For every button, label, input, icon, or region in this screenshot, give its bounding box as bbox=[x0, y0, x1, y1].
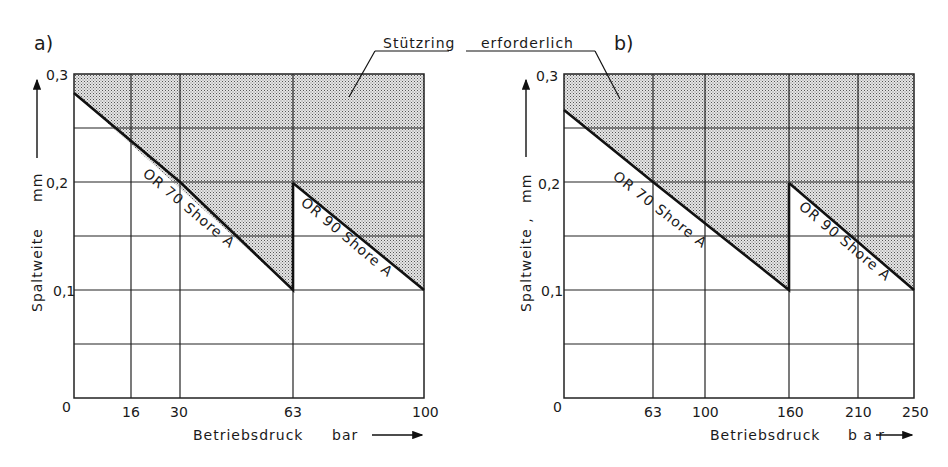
y-tick-a-0.3: 0,3 bbox=[46, 67, 68, 83]
panel-label-a: a) bbox=[34, 32, 53, 54]
y-axis-unit-a: mm bbox=[29, 173, 45, 202]
x-axis-label-a: Betriebsdruck bbox=[193, 427, 303, 443]
callout-text-right: erforderlich bbox=[481, 35, 574, 51]
x-tick-a-30: 30 bbox=[170, 404, 188, 420]
y-tick-a-0.2: 0,2 bbox=[46, 175, 68, 191]
panel-label-b: b) bbox=[614, 32, 633, 54]
y-tick-b-0.1: 0,1 bbox=[541, 283, 563, 299]
x-tick-b-100: 100 bbox=[692, 404, 719, 420]
x-tick-b-250: 250 bbox=[902, 404, 929, 420]
x-tick-a-100: 100 bbox=[412, 404, 439, 420]
x-tick-a-63: 63 bbox=[284, 404, 302, 420]
x-axis-label-b: Betriebsdruck bbox=[710, 427, 820, 443]
figure: a) OR 70 Shore A OR 90 Shore A 0,3 0,2 0… bbox=[0, 0, 948, 467]
x-tick-a-0: 0 bbox=[62, 399, 71, 415]
x-tick-b-0: 0 bbox=[553, 399, 562, 415]
x-axis-unit-a: bar bbox=[332, 427, 358, 443]
y-tick-a-0.1: 0,1 bbox=[53, 283, 75, 299]
x-tick-b-63: 63 bbox=[644, 404, 662, 420]
callout-text-left: Stützring bbox=[383, 35, 456, 51]
x-tick-b-160: 160 bbox=[777, 404, 804, 420]
x-tick-a-16: 16 bbox=[122, 404, 140, 420]
y-axis-label-a: Spaltweite bbox=[29, 228, 45, 312]
y-axis-unit-b: mm bbox=[518, 174, 534, 203]
y-tick-b-0.3: 0,3 bbox=[536, 68, 558, 84]
y-axis-label-b: Spaltweite , bbox=[518, 217, 534, 312]
chart-a: a) OR 70 Shore A OR 90 Shore A 0,3 0,2 0… bbox=[29, 32, 439, 443]
x-tick-b-210: 210 bbox=[845, 404, 872, 420]
chart-b: b) OR 70 Shore A OR 90 Shore A 0,3 0,2 0… bbox=[518, 32, 929, 443]
y-tick-b-0.2: 0,2 bbox=[538, 176, 560, 192]
